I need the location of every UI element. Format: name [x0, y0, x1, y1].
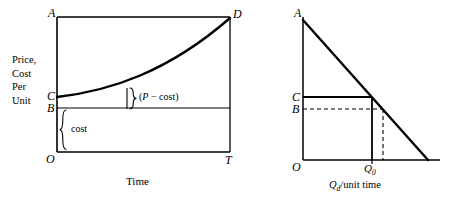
x-axis-label: Qd/unit time	[329, 180, 381, 193]
x-tick-label-q0: Q0	[364, 163, 376, 177]
y-axis-label: Price, Cost Per Unit	[12, 53, 36, 107]
y-axis-label-line-1: Price,	[12, 53, 36, 67]
point-label-d: D	[233, 8, 242, 20]
y-axis-label-line-2: Cost	[12, 67, 36, 81]
x-axis-label: Time	[126, 176, 149, 187]
cost-brace-icon	[60, 110, 66, 149]
left-chart-svg	[0, 0, 258, 200]
cost-annotation-label: cost	[71, 124, 87, 134]
x-axis-label-prefix: Q	[329, 179, 337, 190]
x-axis-label-suffix: /unit time	[340, 179, 381, 190]
point-label-a: A	[294, 7, 301, 19]
margin-brace-icon	[130, 88, 136, 109]
x-tick-label-q0-subscript: 0	[372, 168, 376, 177]
margin-annotation-operator: −	[151, 91, 157, 102]
y-axis-label-line-4: Unit	[12, 94, 36, 108]
margin-annotation-symbol: P	[142, 91, 148, 102]
point-label-t: T	[225, 154, 232, 166]
price-curve	[57, 18, 230, 97]
demand-line	[303, 20, 428, 160]
point-label-b: B	[47, 102, 54, 114]
point-label-o: O	[46, 153, 55, 165]
y-axis-label-line-3: Per	[12, 80, 36, 94]
point-label-o: O	[292, 161, 301, 173]
point-label-b: B	[292, 103, 299, 115]
figure-container: Price, Cost Per Unit A C B O D T (P − co…	[0, 0, 451, 200]
price-cost-over-time-chart: Price, Cost Per Unit A C B O D T (P − co…	[0, 0, 258, 200]
margin-annotation-word: cost	[159, 91, 175, 102]
linear-demand-chart: A C B O Q0 Qd/unit time	[258, 0, 451, 200]
x-tick-label-q0-base: Q	[364, 162, 372, 174]
right-chart-svg	[258, 0, 451, 200]
margin-annotation-label: (P − cost)	[139, 92, 179, 102]
point-label-a: A	[48, 7, 55, 19]
